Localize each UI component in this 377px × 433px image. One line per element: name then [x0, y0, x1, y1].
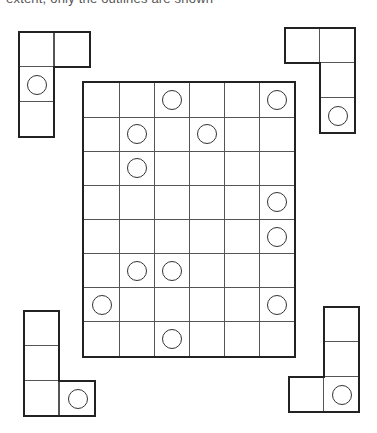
grid-row-line	[84, 117, 294, 118]
grid-circle-marker	[127, 158, 147, 178]
piece-outline-edge	[59, 415, 96, 417]
piece-cell	[319, 62, 355, 98]
grid-row-line	[84, 287, 294, 288]
piece-cell	[319, 97, 355, 133]
piece-outline-edge	[54, 31, 91, 33]
piece-cell	[23, 345, 59, 381]
piece-cell	[323, 306, 359, 342]
piece-outline-edge	[23, 310, 60, 312]
piece-outline-edge	[354, 27, 356, 64]
piece-outline-edge	[319, 62, 321, 99]
piece-outline-edge	[358, 341, 360, 378]
piece-cell	[18, 66, 54, 102]
grid-row-line	[84, 219, 294, 220]
piece-cell	[18, 101, 54, 137]
piece-circle-marker	[68, 389, 88, 409]
grid-circle-marker	[267, 295, 287, 315]
grid-circle-marker	[197, 124, 217, 144]
piece-outline-edge	[59, 380, 96, 382]
piece-outline-edge	[53, 101, 55, 138]
piece-outline-edge	[354, 97, 356, 134]
piece-outline-edge	[54, 66, 91, 68]
grid-circle-marker	[162, 90, 182, 110]
grid-circle-marker	[127, 261, 147, 281]
piece-outline-edge	[323, 306, 360, 308]
piece-cell	[323, 341, 359, 377]
piece-circle-marker	[328, 106, 348, 126]
piece-outline-edge	[89, 31, 91, 68]
grid-circle-marker	[127, 124, 147, 144]
piece-outline-edge	[284, 27, 321, 29]
piece-cell	[323, 376, 359, 412]
piece-outline-edge	[288, 411, 325, 413]
piece-outline-edge	[23, 345, 25, 382]
piece-outline-edge	[18, 31, 55, 33]
grid-circle-marker	[267, 90, 287, 110]
piece-cell	[59, 380, 95, 416]
grid-row-line	[84, 321, 294, 322]
piece-cell	[23, 310, 59, 346]
piece-circle-marker	[332, 385, 352, 405]
piece-outline-edge	[23, 415, 60, 417]
piece-outline-edge	[319, 132, 356, 134]
piece-outline-edge	[319, 27, 356, 29]
grid-circle-marker	[162, 261, 182, 281]
piece-outline-edge	[58, 310, 60, 347]
piece-cell	[54, 31, 90, 67]
piece-circle-marker	[27, 75, 47, 95]
piece-outline-edge	[18, 66, 20, 103]
piece-outline-edge	[288, 376, 290, 413]
piece-cell	[18, 31, 54, 67]
piece-outline-edge	[323, 411, 360, 413]
grid-circle-marker	[267, 192, 287, 212]
grid-circle-marker	[267, 227, 287, 247]
piece-cell	[23, 380, 59, 416]
clipped-caption-text: extent, only the outlines are shown	[6, 0, 213, 6]
piece-outline-edge	[288, 376, 325, 378]
puzzle-grid	[82, 81, 296, 358]
piece-outline-edge	[18, 31, 20, 68]
piece-outline-edge	[18, 136, 55, 138]
piece-outline-edge	[23, 310, 25, 347]
piece-outline-edge	[94, 380, 96, 417]
grid-circle-marker	[92, 295, 112, 315]
piece-outline-edge	[319, 97, 321, 134]
grid-row-line	[84, 151, 294, 152]
piece-outline-edge	[284, 62, 321, 64]
grid-circle-marker	[162, 329, 182, 349]
piece-outline-edge	[23, 380, 25, 417]
piece-outline-edge	[323, 306, 325, 343]
piece-outline-edge	[354, 62, 356, 99]
piece-outline-edge	[18, 101, 20, 138]
grid-row-line	[84, 253, 294, 254]
piece-outline-edge	[284, 27, 286, 64]
piece-cell	[284, 27, 320, 63]
piece-outline-edge	[358, 306, 360, 343]
piece-outline-edge	[358, 376, 360, 413]
piece-outline-edge	[53, 66, 55, 103]
piece-cell	[319, 27, 355, 63]
grid-row-line	[84, 185, 294, 186]
piece-outline-edge	[58, 345, 60, 382]
piece-outline-edge	[323, 341, 325, 378]
piece-cell	[288, 376, 324, 412]
